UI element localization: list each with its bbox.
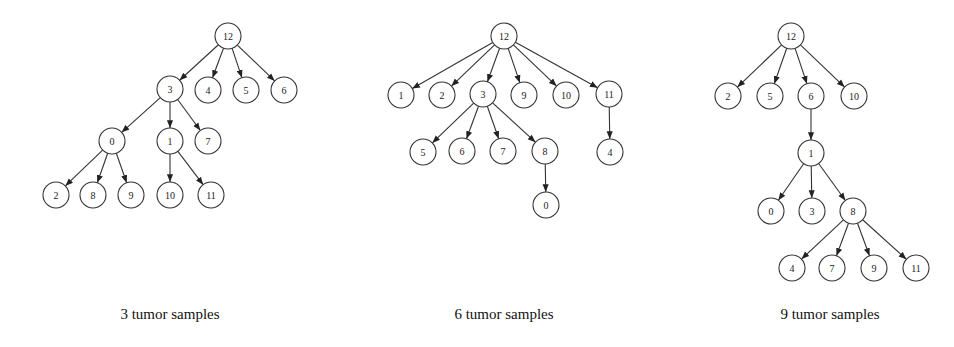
svg-text:0: 0 xyxy=(769,206,774,217)
svg-text:4: 4 xyxy=(608,147,613,158)
node-0: 0 xyxy=(758,198,784,224)
node-5: 5 xyxy=(757,83,783,109)
edge-0-to-8 xyxy=(97,153,107,182)
node-8: 8 xyxy=(840,198,866,224)
edge-12-to-5 xyxy=(774,48,786,83)
node-4: 4 xyxy=(195,77,221,103)
svg-text:12: 12 xyxy=(223,31,233,42)
node-7: 7 xyxy=(490,138,516,164)
svg-text:5: 5 xyxy=(421,147,426,158)
tumor-phylogeny-trees: 1234560172891011 1212391011567840 122561… xyxy=(0,0,954,347)
edge-3-to-6 xyxy=(466,106,478,139)
svg-text:8: 8 xyxy=(543,146,548,157)
svg-text:6: 6 xyxy=(460,146,465,157)
svg-text:11: 11 xyxy=(206,190,216,201)
svg-text:8: 8 xyxy=(91,190,96,201)
node-10: 10 xyxy=(157,182,183,208)
edge-12-to-11 xyxy=(515,42,597,87)
svg-text:2: 2 xyxy=(54,190,59,201)
svg-text:12: 12 xyxy=(499,31,509,42)
edge-12-to-10 xyxy=(513,45,556,86)
edge-8-to-11 xyxy=(863,220,907,260)
node-11: 11 xyxy=(596,81,622,107)
svg-text:4: 4 xyxy=(206,85,211,96)
edge-12-to-10 xyxy=(800,45,844,87)
edge-12-to-6 xyxy=(795,48,807,83)
svg-text:10: 10 xyxy=(165,190,175,201)
node-0: 0 xyxy=(99,128,125,154)
tree-6-samples: 1212391011567840 xyxy=(388,23,623,218)
node-7: 7 xyxy=(819,255,845,281)
node-5: 5 xyxy=(410,139,436,165)
svg-text:10: 10 xyxy=(849,91,859,102)
node-6: 6 xyxy=(798,83,824,109)
node-4: 4 xyxy=(597,139,623,165)
svg-text:2: 2 xyxy=(726,91,731,102)
node-0: 0 xyxy=(533,192,559,218)
edge-1-to-8 xyxy=(819,164,846,201)
node-8: 8 xyxy=(80,182,106,208)
node-10: 10 xyxy=(841,83,867,109)
node-1: 1 xyxy=(157,128,183,154)
node-11: 11 xyxy=(198,182,224,208)
edge-1-to-3 xyxy=(811,166,812,198)
node-2: 2 xyxy=(429,82,455,108)
node-8: 8 xyxy=(532,138,558,164)
svg-text:3: 3 xyxy=(810,206,815,217)
tree-3-samples: 1234560172891011 xyxy=(43,23,297,208)
edge-8-to-7 xyxy=(836,223,848,256)
edge-12-to-3 xyxy=(180,45,219,80)
edge-3-to-0 xyxy=(122,98,161,133)
svg-text:10: 10 xyxy=(561,90,571,101)
node-11: 11 xyxy=(903,255,929,281)
node-12: 12 xyxy=(778,23,804,49)
node-12: 12 xyxy=(215,23,241,49)
edge-1-to-11 xyxy=(178,151,203,184)
edge-3-to-8 xyxy=(493,103,536,142)
node-3: 3 xyxy=(799,198,825,224)
svg-text:6: 6 xyxy=(282,85,287,96)
svg-text:0: 0 xyxy=(544,200,549,211)
svg-text:5: 5 xyxy=(768,91,773,102)
edge-1-to-0 xyxy=(778,164,803,201)
edge-11-to-4 xyxy=(609,107,610,139)
caption-9-tumor-samples: 9 tumor samples xyxy=(780,306,879,323)
svg-text:11: 11 xyxy=(604,89,614,100)
svg-text:3: 3 xyxy=(481,89,486,100)
node-12: 12 xyxy=(491,23,517,49)
svg-text:7: 7 xyxy=(830,263,835,274)
svg-text:9: 9 xyxy=(522,90,527,101)
svg-text:2: 2 xyxy=(440,90,445,101)
svg-text:12: 12 xyxy=(786,31,796,42)
edge-12-to-9 xyxy=(508,48,520,82)
node-1: 1 xyxy=(388,82,414,108)
node-6: 6 xyxy=(449,138,475,164)
svg-text:1: 1 xyxy=(168,136,173,147)
node-9: 9 xyxy=(861,255,887,281)
edge-12-to-5 xyxy=(232,48,242,77)
edge-8-to-0 xyxy=(545,164,546,192)
tree-9-samples: 1225610103847911 xyxy=(715,23,929,281)
svg-text:5: 5 xyxy=(244,85,249,96)
svg-text:0: 0 xyxy=(110,136,115,147)
node-7: 7 xyxy=(195,128,221,154)
svg-text:9: 9 xyxy=(872,263,877,274)
edge-12-to-4 xyxy=(213,48,224,78)
edge-0-to-2 xyxy=(65,150,102,186)
svg-text:3: 3 xyxy=(168,84,173,95)
svg-text:4: 4 xyxy=(790,263,795,274)
caption-6-tumor-samples: 6 tumor samples xyxy=(454,306,553,323)
svg-text:6: 6 xyxy=(809,91,814,102)
caption-3-tumor-samples: 3 tumor samples xyxy=(120,306,219,323)
edge-3-to-7 xyxy=(178,99,201,130)
node-10: 10 xyxy=(553,82,579,108)
node-9: 9 xyxy=(118,182,144,208)
svg-text:7: 7 xyxy=(501,146,506,157)
svg-text:11: 11 xyxy=(911,263,921,274)
edge-3-to-7 xyxy=(487,106,498,138)
edge-0-to-9 xyxy=(116,153,126,182)
svg-text:1: 1 xyxy=(809,148,814,159)
svg-text:9: 9 xyxy=(129,190,134,201)
node-6: 6 xyxy=(271,77,297,103)
svg-text:1: 1 xyxy=(399,90,404,101)
